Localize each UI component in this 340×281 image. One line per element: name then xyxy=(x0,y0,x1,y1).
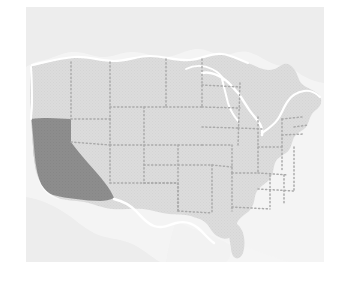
locator-map-figure: Map of the United States with California… xyxy=(0,0,340,281)
pacific-coastline xyxy=(31,67,32,119)
us-map-svg xyxy=(26,7,324,262)
map-tile xyxy=(26,7,324,262)
